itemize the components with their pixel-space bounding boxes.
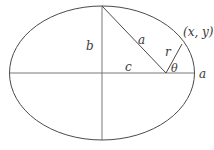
label-c: c [125,60,132,74]
label-r: r [165,45,172,59]
label-a-hypotenuse: a [138,33,145,47]
segment-a [102,6,166,73]
label-a-right: a [199,67,206,81]
label-theta: θ [171,62,178,75]
label-point: (x, y) [183,25,214,39]
label-b: b [86,39,94,53]
ellipse-diagram: b a c r θ (x, y) a [0,0,214,150]
